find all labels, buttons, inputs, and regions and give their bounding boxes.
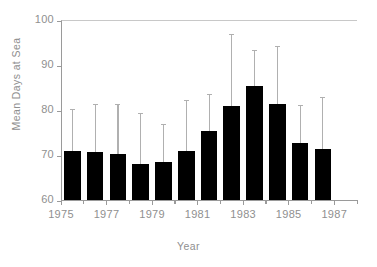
error-bar [140, 113, 141, 164]
bar [132, 164, 149, 200]
bar [246, 86, 263, 200]
error-bar [186, 100, 187, 151]
error-bar [72, 109, 73, 151]
error-bar-cap [298, 105, 303, 106]
y-axis-tick-label: 80 [28, 104, 54, 115]
bar [87, 152, 104, 200]
x-axis-tick [61, 200, 62, 205]
x-axis-tick [334, 200, 335, 205]
y-axis-tick [57, 111, 62, 112]
bar [64, 151, 81, 200]
error-bar [322, 97, 323, 149]
x-axis-tick [197, 200, 198, 205]
x-axis-title: Year [0, 240, 377, 252]
bar [315, 149, 332, 200]
x-axis-tick [106, 200, 107, 205]
error-bar [277, 46, 278, 104]
x-axis-minor-tick [357, 200, 358, 204]
bar [155, 162, 172, 200]
x-axis-minor-tick [83, 200, 84, 204]
x-axis-tick-label: 1981 [185, 209, 211, 220]
error-bar [163, 124, 164, 161]
bar [292, 143, 309, 200]
y-axis-tick-label: 60 [28, 194, 54, 205]
bar [110, 154, 127, 200]
error-bar-cap [207, 94, 212, 95]
y-axis-tick [57, 21, 62, 22]
error-bar-cap [229, 34, 234, 35]
x-axis-tick-label: 1979 [139, 209, 165, 220]
x-axis-tick-label: 1975 [48, 209, 74, 220]
x-axis-tick [288, 200, 289, 205]
chart-figure: Mean Days at Sea Year 100908070601975197… [0, 0, 377, 267]
x-axis-minor-tick [220, 200, 221, 204]
error-bar-cap [115, 104, 120, 105]
error-bar [95, 104, 96, 152]
error-bar-cap [252, 50, 257, 51]
y-axis-tick [57, 66, 62, 67]
error-bar-cap [70, 109, 75, 110]
x-axis-minor-tick [311, 200, 312, 204]
x-axis-minor-tick [174, 200, 175, 204]
x-axis-tick-label: 1987 [321, 209, 347, 220]
bar [269, 104, 286, 200]
x-axis-tick-label: 1985 [276, 209, 302, 220]
error-bar [231, 34, 232, 106]
error-bar-cap [138, 113, 143, 114]
y-axis-tick [57, 156, 62, 157]
bar [178, 151, 195, 200]
x-axis-tick [152, 200, 153, 205]
x-axis-tick-label: 1983 [230, 209, 256, 220]
error-bar [254, 50, 255, 86]
error-bar [300, 105, 301, 144]
error-bar-cap [275, 46, 280, 47]
y-axis-tick-label: 70 [28, 149, 54, 160]
bar [201, 131, 218, 200]
y-axis-tick-label: 90 [28, 59, 54, 70]
error-bar-cap [93, 104, 98, 105]
y-axis-title: Mean Days at Sea [10, 14, 22, 154]
y-axis-tick-label: 100 [28, 14, 54, 25]
error-bar-cap [320, 97, 325, 98]
error-bar-cap [184, 100, 189, 101]
error-bar-cap [161, 124, 166, 125]
x-axis-minor-tick [129, 200, 130, 204]
x-axis-tick [243, 200, 244, 205]
x-axis-minor-tick [265, 200, 266, 204]
x-axis-tick-label: 1977 [94, 209, 120, 220]
error-bar [117, 104, 118, 154]
bar [223, 106, 240, 200]
error-bar [209, 94, 210, 130]
